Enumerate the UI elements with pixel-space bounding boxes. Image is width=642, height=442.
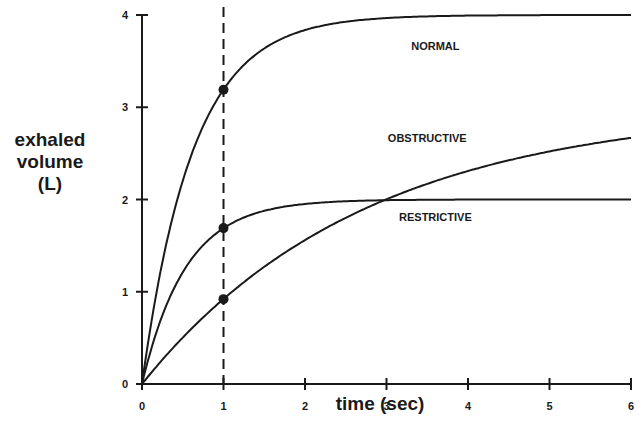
y-tick-label: 4 — [122, 9, 129, 21]
y-tick-label: 3 — [122, 101, 128, 113]
x-tick-label: 1 — [220, 400, 226, 412]
marker-obstructive — [219, 294, 229, 304]
y-axis-title: exhaled volume (L) — [10, 129, 90, 195]
x-tick-label: 0 — [139, 400, 145, 412]
x-tick-label: 6 — [628, 400, 634, 412]
curve-obstructive — [142, 138, 631, 384]
y-axis-title-line-2: volume — [10, 151, 90, 173]
axes: 012340123456 — [122, 9, 634, 412]
chart-plot-area: 012340123456 NORMALOBSTRUCTIVERESTRICTIV… — [0, 0, 642, 442]
label-normal: NORMAL — [411, 40, 460, 52]
x-axis-title: time (sec) — [260, 393, 500, 415]
curves — [142, 15, 631, 384]
y-tick-label: 0 — [122, 378, 128, 390]
marker-restrictive — [219, 223, 229, 233]
label-restrictive: RESTRICTIVE — [399, 211, 472, 223]
curve-restrictive — [142, 200, 631, 385]
y-tick-label: 1 — [122, 286, 128, 298]
y-tick-label: 2 — [122, 194, 128, 206]
x-tick-label: 5 — [546, 400, 552, 412]
y-axis-title-line-3: (L) — [10, 173, 90, 195]
series-labels: NORMALOBSTRUCTIVERESTRICTIVE — [388, 40, 472, 223]
y-axis-title-line-1: exhaled — [10, 129, 90, 151]
label-obstructive: OBSTRUCTIVE — [388, 132, 467, 144]
marker-normal — [219, 85, 229, 95]
